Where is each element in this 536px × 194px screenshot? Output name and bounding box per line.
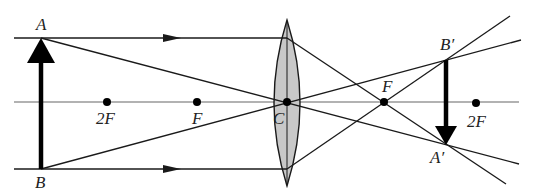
point-f-right [380,98,388,106]
point-2f-left [103,98,111,106]
label-2f-right: 2F [467,112,487,131]
label-b: B [35,173,46,192]
ray-b-refracted [287,16,510,169]
point-center [283,98,291,106]
ray-arrow-icon [163,34,181,42]
label-f-right: F [381,77,393,96]
lens-ray-diagram: A B 2F F C F B′ A′ 2F [0,0,536,194]
label-a-prime: A′ [429,148,444,167]
label-f-left: F [191,109,203,128]
ray-arrow-icon [163,165,181,173]
point-2f-right [472,99,480,107]
label-a: A [35,15,47,34]
object-arrowhead-icon [27,38,55,63]
point-f-left [193,98,201,106]
label-2f-left: 2F [96,109,116,128]
label-c: C [273,109,285,128]
label-b-prime: B′ [440,35,454,54]
